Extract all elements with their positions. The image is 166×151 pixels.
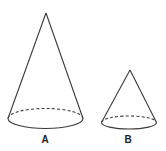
- cones-diagram: A B: [0, 0, 166, 151]
- cone-b-base-visible-arc: [102, 123, 157, 130]
- cone-b: [102, 70, 157, 129]
- cone-b-right-edge: [130, 70, 157, 123]
- cone-a-right-edge: [46, 13, 83, 119]
- cone-a-base-visible-arc: [8, 119, 83, 129]
- cone-a: [8, 13, 83, 129]
- cone-a-label: A: [41, 134, 48, 145]
- cone-a-left-edge: [8, 13, 46, 119]
- cone-b-base-hidden-arc: [102, 116, 157, 122]
- cone-a-base-hidden-arc: [8, 109, 83, 119]
- cone-b-left-edge: [102, 70, 131, 123]
- cone-b-label: B: [124, 134, 131, 145]
